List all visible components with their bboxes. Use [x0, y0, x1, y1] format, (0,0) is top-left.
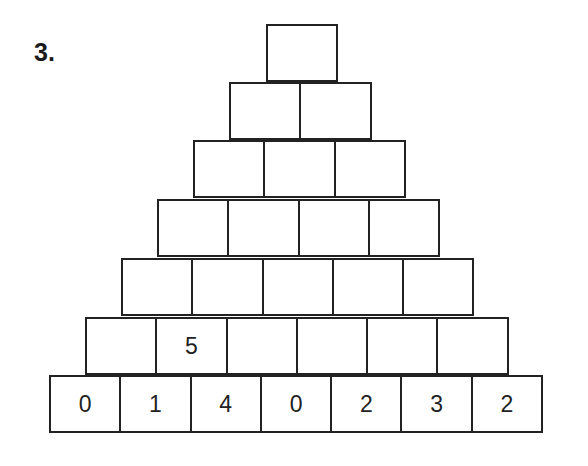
- pyramid-cell[interactable]: [263, 140, 335, 198]
- pyramid-base-cell: 3: [400, 375, 472, 433]
- pyramid-cell-given: 5: [155, 317, 227, 375]
- pyramid-cell[interactable]: [262, 258, 334, 316]
- pyramid-cell[interactable]: [193, 140, 265, 198]
- pyramid-cell[interactable]: [366, 317, 438, 375]
- pyramid-base-cell: 0: [260, 375, 332, 433]
- pyramid-cell[interactable]: [266, 24, 338, 82]
- pyramid-row-6: [229, 82, 372, 140]
- pyramid-row-3: [121, 258, 474, 316]
- pyramid-cell[interactable]: [299, 82, 371, 140]
- number-pyramid: 5 0 1 4 0 2 3 2: [0, 0, 588, 466]
- pyramid-cell[interactable]: [368, 199, 440, 257]
- pyramid-row-1: 0 1 4 0 2 3 2: [49, 375, 543, 433]
- pyramid-row-7: [266, 24, 338, 82]
- pyramid-row-5: [193, 140, 406, 198]
- pyramid-cell[interactable]: [332, 258, 404, 316]
- pyramid-cell[interactable]: [296, 317, 368, 375]
- pyramid-base-cell: 2: [330, 375, 402, 433]
- pyramid-cell[interactable]: [85, 317, 157, 375]
- pyramid-cell[interactable]: [334, 140, 406, 198]
- pyramid-cell[interactable]: [436, 317, 508, 375]
- pyramid-row-2: 5: [85, 317, 509, 375]
- pyramid-base-cell: 0: [49, 375, 121, 433]
- pyramid-base-cell: 4: [190, 375, 262, 433]
- pyramid-cell[interactable]: [402, 258, 474, 316]
- pyramid-base-cell: 1: [119, 375, 191, 433]
- pyramid-cell[interactable]: [157, 199, 229, 257]
- pyramid-cell[interactable]: [229, 82, 301, 140]
- pyramid-row-4: [157, 199, 440, 257]
- pyramid-cell[interactable]: [121, 258, 193, 316]
- pyramid-cell[interactable]: [191, 258, 263, 316]
- pyramid-cell[interactable]: [227, 199, 299, 257]
- pyramid-base-cell: 2: [471, 375, 543, 433]
- pyramid-cell[interactable]: [298, 199, 370, 257]
- pyramid-cell[interactable]: [226, 317, 298, 375]
